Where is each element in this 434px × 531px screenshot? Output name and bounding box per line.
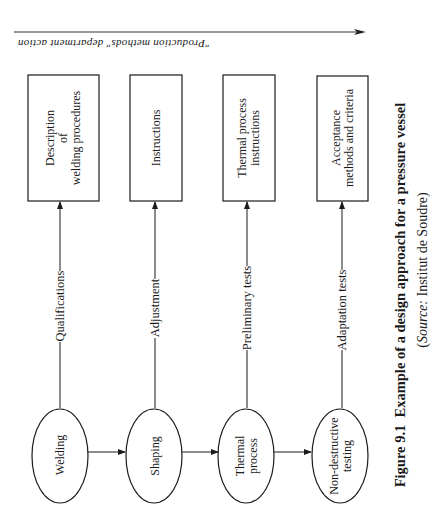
output-label-welding: Description of welding procedures	[44, 91, 83, 185]
step-label-ndt: Non-destructive testing	[328, 417, 354, 494]
step-label-thermal: Thermal process	[234, 436, 260, 477]
department-action-arrow	[14, 29, 366, 35]
step-label-welding: Welding	[54, 435, 67, 475]
source-text: Institut de Soudre	[415, 197, 430, 297]
figure-title: Example of a design approach for a press…	[392, 103, 408, 418]
connector-label-preliminary-tests: Preliminary tests	[241, 266, 254, 350]
connector-label-qualifications: Qualifications	[54, 271, 67, 342]
output-label-thermal: Thermal process instructions	[236, 98, 262, 178]
output-label-ndt: Acceptance methods and criteria	[330, 89, 356, 187]
connector-label-adaptation-tests: Adaptation tests	[336, 270, 349, 351]
figure-number: Figure 9.1	[392, 425, 408, 488]
figure-source: (Source: Institut de Soudre)	[416, 192, 429, 347]
step-label-shaping: Shaping	[149, 436, 162, 475]
output-label-shaping: Instructions	[150, 110, 163, 167]
connector-label-adjustment: Adjustment	[149, 279, 162, 337]
department-action-label: "Production methods" department action	[14, 36, 210, 50]
figure-caption: Figure 9.1 Example of a design approach …	[394, 103, 407, 488]
source-label: Source:	[415, 300, 430, 343]
